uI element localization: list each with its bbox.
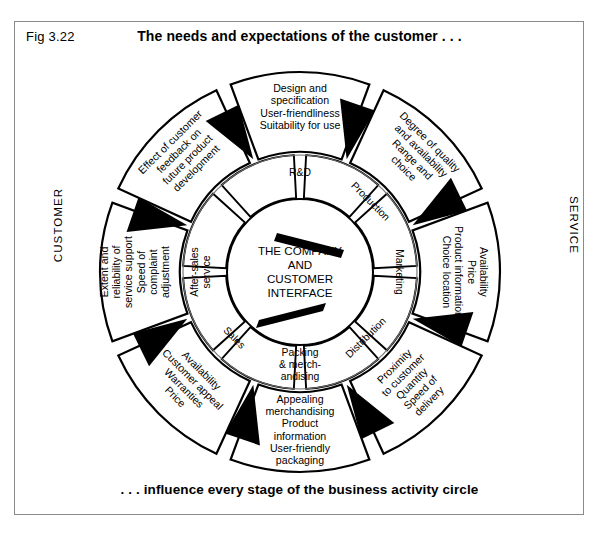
business-activity-wheel: Design andspecificationUser-friendliness… — [0, 0, 599, 536]
inner-label-packing: Packing& merch-andising — [279, 347, 321, 382]
inner-label-marketing: Marketing — [394, 249, 405, 295]
inner-label-rd: R&D — [289, 167, 311, 178]
figure-page: Fig 3.22 The needs and expectations of t… — [0, 0, 599, 536]
center-text: THE COMPANYANDCUSTOMERINTERFACE — [258, 244, 342, 300]
center-label: THE COMPANYANDCUSTOMERINTERFACE — [258, 244, 342, 300]
